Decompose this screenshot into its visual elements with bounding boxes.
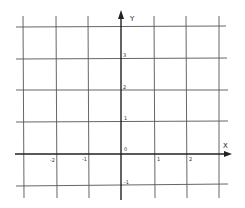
y-tick-label: -1 [124, 179, 129, 185]
x-tick-label: -1 [82, 156, 87, 162]
origin-label: 0 [124, 146, 127, 152]
x-axis-label: X [223, 142, 228, 150]
x-tick-label: 1 [157, 156, 160, 162]
coordinate-grid: X Y 0 -2 -1 1 2 3 2 1 -1 [0, 0, 245, 208]
x-tick-label: -2 [50, 157, 55, 163]
y-tick-label: 1 [124, 115, 127, 121]
grid-lines-horizontal [16, 26, 228, 186]
y-axis [118, 10, 124, 200]
y-axis-label: Y [129, 15, 135, 23]
y-tick-label: 3 [123, 52, 126, 58]
y-axis-arrow-icon [118, 10, 124, 19]
y-tick-label: 2 [123, 84, 126, 90]
x-tick-label: 2 [189, 156, 192, 162]
x-axis-arrow-icon [224, 151, 232, 157]
